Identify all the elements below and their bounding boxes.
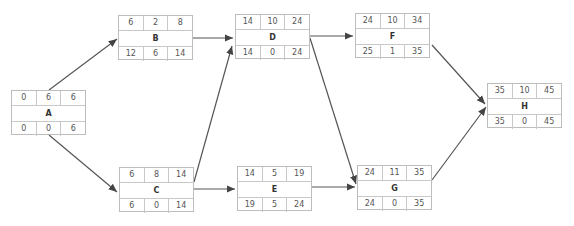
early-start: 0 <box>12 91 37 105</box>
late-start: 19 <box>238 198 263 212</box>
duration: 8 <box>145 168 170 182</box>
late-start: 24 <box>358 197 383 211</box>
activity-name: F <box>356 29 429 44</box>
late-start: 25 <box>356 45 381 59</box>
slack: 0 <box>513 115 538 129</box>
node-h: 351045 H 35045 <box>487 83 562 128</box>
slack: 1 <box>381 45 406 59</box>
node-b: 628 B 12614 <box>118 15 193 60</box>
node-c: 6814 C 6014 <box>119 167 194 212</box>
late-finish: 35 <box>405 45 429 59</box>
early-finish: 24 <box>285 15 309 29</box>
early-finish: 8 <box>168 16 192 30</box>
duration: 5 <box>263 167 288 181</box>
late-finish: 14 <box>168 47 192 61</box>
duration: 10 <box>261 15 286 29</box>
duration: 10 <box>513 84 538 98</box>
node-a: 066 A 006 <box>11 90 86 135</box>
slack: 0 <box>145 199 170 213</box>
activity-name: E <box>238 182 311 197</box>
early-finish: 35 <box>407 166 431 180</box>
edge-d-g <box>310 38 356 184</box>
early-finish: 34 <box>405 14 429 28</box>
early-start: 24 <box>356 14 381 28</box>
late-finish: 14 <box>169 199 193 213</box>
early-finish: 14 <box>169 168 193 182</box>
node-g: 241135 G 24035 <box>357 165 432 210</box>
activity-name: G <box>358 181 431 196</box>
slack: 6 <box>144 47 169 61</box>
duration: 11 <box>383 166 408 180</box>
duration: 6 <box>37 91 62 105</box>
early-start: 6 <box>119 16 144 30</box>
late-finish: 24 <box>287 198 311 212</box>
activity-name: D <box>236 30 309 45</box>
activity-name: H <box>488 99 561 114</box>
node-d: 141024 D 14024 <box>235 14 310 59</box>
slack: 0 <box>383 197 408 211</box>
late-start: 12 <box>119 47 144 61</box>
edge-g-h <box>432 107 486 180</box>
late-finish: 45 <box>537 115 561 129</box>
late-start: 14 <box>236 46 261 60</box>
early-start: 6 <box>120 168 145 182</box>
activity-name: C <box>120 183 193 198</box>
edge-f-h <box>432 45 485 104</box>
edge-a-c <box>49 135 117 192</box>
early-start: 24 <box>358 166 383 180</box>
late-start: 35 <box>488 115 513 129</box>
early-start: 14 <box>236 15 261 29</box>
slack: 0 <box>37 122 62 136</box>
slack: 0 <box>261 46 286 60</box>
edge-c-d <box>194 46 232 182</box>
early-start: 35 <box>488 84 513 98</box>
early-finish: 19 <box>287 167 311 181</box>
early-finish: 45 <box>537 84 561 98</box>
edge-a-b <box>49 39 117 90</box>
node-e: 14519 E 19524 <box>237 166 312 211</box>
late-finish: 24 <box>285 46 309 60</box>
duration: 10 <box>381 14 406 28</box>
late-finish: 35 <box>407 197 431 211</box>
node-f: 241034 F 25135 <box>355 13 430 58</box>
late-start: 0 <box>12 122 37 136</box>
early-finish: 6 <box>61 91 85 105</box>
late-start: 6 <box>120 199 145 213</box>
activity-name: B <box>119 31 192 46</box>
late-finish: 6 <box>61 122 85 136</box>
duration: 2 <box>144 16 169 30</box>
early-start: 14 <box>238 167 263 181</box>
activity-name: A <box>12 106 85 121</box>
slack: 5 <box>263 198 288 212</box>
